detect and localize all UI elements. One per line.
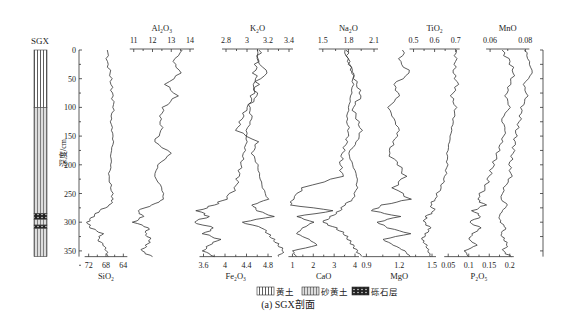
curve-mgo (371, 50, 411, 257)
tick-label: 4.4 (242, 261, 252, 270)
tick-label: 3.2 (263, 36, 273, 45)
tick-label: 0.05 (441, 261, 455, 270)
depth-tick-label: 0 (72, 46, 76, 55)
axis-title-p2o5: P₂O₅ (471, 271, 488, 281)
legend-swatch (257, 287, 274, 295)
legend: 黄土砂黄土砾石层 (257, 287, 398, 297)
axis-title-na2o: Na₂O (339, 23, 358, 33)
depth-tick-label: 250 (64, 190, 76, 199)
curve-na2o (323, 50, 362, 257)
strat-layer-sandy-loess (34, 107, 47, 213)
tick-label: 1 (290, 261, 294, 270)
legend-swatch (302, 287, 319, 295)
tick-label: 3.4 (284, 36, 294, 45)
legend-swatch (352, 287, 369, 295)
tick-label: 64 (119, 261, 127, 270)
strat-layer-gravel (34, 225, 47, 228)
strat-layer-loess (34, 50, 47, 107)
legend-label: 砂黄土 (321, 287, 348, 297)
tick-label: 2.1 (369, 36, 379, 45)
strat-layer-sandy-loess (34, 229, 47, 257)
axis-title-cao: CaO (316, 271, 332, 281)
tick-label: 0.08 (518, 36, 532, 45)
legend-item-loess: 黄土 (257, 287, 294, 297)
tick-label: 4 (353, 261, 357, 270)
tick-label: 0.7 (451, 36, 461, 45)
series-na2o: 1.51.82.1Na₂O (318, 23, 379, 257)
axis-title-k2o: K₂O (250, 23, 265, 33)
tick-label: 13 (167, 36, 175, 45)
tick-label: 2.8 (221, 36, 231, 45)
tick-label: 1.5 (318, 36, 328, 45)
depth-axis-label: 深度/cm (58, 138, 68, 167)
tick-label: 4 (223, 261, 227, 270)
geochemistry-depth-profile-chart: 050100150200250300350深度/cm 726864SiO₂111… (0, 0, 572, 330)
figure-caption: (a) SGX剖面 (261, 298, 315, 311)
tick-label: 4.8 (263, 261, 273, 270)
tick-label: 14 (186, 36, 194, 45)
axis-title-mno: MnO (499, 23, 517, 33)
series-sio2: 726864SiO₂ (85, 50, 128, 281)
tick-label: 0.2 (505, 261, 515, 270)
series-k2o: 2.833.23.4K₂O (221, 23, 294, 257)
depth-tick-label: 350 (64, 247, 76, 256)
series-mgo: 0.91.21.5MgO (361, 50, 437, 281)
series-al2o3: 11121314Al₂O₃ (130, 23, 194, 257)
axis-title-fe2o3: Fe₂O₃ (225, 271, 246, 281)
series-tio2: 0.50.60.7TiO₂ (409, 23, 461, 257)
curve-k2o (236, 50, 284, 257)
tick-label: 0.6 (430, 36, 440, 45)
strat-layer-gravel (34, 214, 47, 220)
tick-label: 3 (332, 261, 336, 270)
tick-label: 0.06 (483, 36, 497, 45)
curve-sio2 (87, 50, 115, 257)
tick-label: 0.15 (482, 261, 496, 270)
stratigraphic-column (34, 50, 47, 257)
element-curves: 726864SiO₂11121314Al₂O₃3.644.44.8Fe₂O₃2.… (85, 23, 533, 281)
tick-label: 12 (149, 36, 157, 45)
tick-label: 0.5 (409, 36, 419, 45)
tick-label: 1.8 (343, 36, 353, 45)
tick-label: 2 (311, 261, 315, 270)
curve-tio2 (422, 50, 459, 257)
legend-label: 砾石层 (371, 287, 398, 297)
curve-p2o5 (464, 50, 514, 257)
tick-label: 3.6 (199, 261, 209, 270)
tick-label: 72 (85, 261, 93, 270)
curve-al2o3 (132, 50, 182, 257)
tick-label: 0.9 (361, 261, 371, 270)
tick-label: 1.5 (427, 261, 437, 270)
curve-mno (499, 50, 532, 257)
axis-title-al2o3: Al₂O₃ (152, 23, 173, 33)
legend-item-sandy-loess: 砂黄土 (302, 287, 348, 297)
curve-cao (290, 50, 354, 257)
legend-item-gravel: 砾石层 (352, 287, 398, 297)
legend-label: 黄土 (276, 287, 294, 297)
axis-title-sio2: SiO₂ (98, 271, 114, 281)
tick-label: 1.2 (394, 261, 404, 270)
strat-layer-sandy-loess (34, 219, 47, 225)
depth-tick-label: 300 (64, 218, 76, 227)
tick-label: 11 (130, 36, 138, 45)
section-label: SGX (31, 36, 50, 46)
tick-label: 68 (102, 261, 110, 270)
depth-tick-label: 100 (64, 103, 76, 112)
axis-title-mgo: MgO (390, 271, 408, 281)
depth-axis: 050100150200250300350深度/cm (58, 46, 543, 265)
axis-title-tio2: TiO₂ (426, 23, 442, 33)
depth-tick-label: 50 (68, 75, 76, 84)
tick-label: 3 (245, 36, 249, 45)
series-p2o5: 0.050.10.150.2P₂O₅ (441, 50, 515, 281)
series-cao: 1234CaO (288, 50, 359, 281)
tick-label: 0.1 (464, 261, 474, 270)
series-fe2o3: 3.644.44.8Fe₂O₃ (195, 50, 273, 281)
